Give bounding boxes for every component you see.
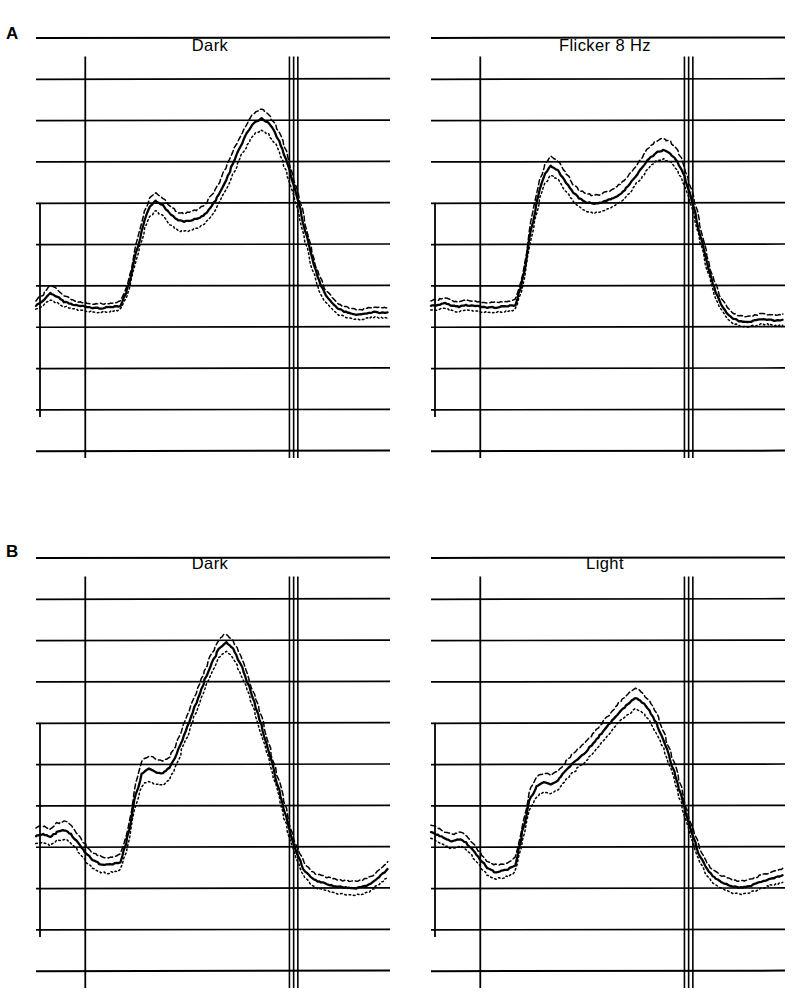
figure-container: A Dark Flicker 8 Hz B Dark Light [0,0,797,994]
plot-title-b-right: Light [425,554,785,573]
gridline [36,368,390,369]
plot-b-right: Light [425,536,785,988]
gridline [431,929,785,930]
gridline [431,409,785,410]
gridline [36,640,390,641]
trace-lower_band [36,130,388,320]
gridline [36,723,390,724]
gridline [431,120,785,121]
gridline [431,244,785,245]
plot-title-a-right: Flicker 8 Hz [425,36,785,55]
gridline [431,203,785,204]
gridline [431,764,785,765]
plot-a-right: Flicker 8 Hz [425,18,785,458]
trace-upper_band [36,109,388,310]
gridline [431,640,785,641]
gridline [36,79,390,80]
waveform-plot-a-right [425,18,785,458]
trace-mean [431,150,783,322]
plot-title-a-left: Dark [30,36,390,55]
trace-lower_band [431,709,783,895]
gridline [431,681,785,682]
trace-upper_band [431,138,783,316]
plot-title-b-left: Dark [30,554,390,573]
gridline [431,805,785,806]
gridline [36,599,390,600]
waveform-plot-b-right [425,536,785,988]
gridline [36,161,390,162]
gridline [36,847,390,848]
gridline [431,285,785,286]
waveform-plot-b-left [30,536,390,988]
gridline [431,451,785,452]
panel-letter-a: A [6,24,18,44]
gridline [36,805,390,806]
gridline [36,409,390,410]
gridline [36,327,390,328]
gridline [36,764,390,765]
gridline [36,929,390,930]
gridline [431,971,785,972]
gridline [431,847,785,848]
gridline [431,327,785,328]
plot-b-left: Dark [30,536,390,988]
gridline [36,451,390,452]
panel-letter-b: B [6,542,18,562]
gridline [431,723,785,724]
gridline [36,971,390,972]
gridline [431,888,785,889]
gridline [431,79,785,80]
trace-upper_band [431,688,783,881]
waveform-plot-a-left [30,18,390,458]
gridline [36,681,390,682]
gridline [431,368,785,369]
gridline [431,161,785,162]
gridline [36,120,390,121]
gridline [36,285,390,286]
trace-lower_band [36,651,388,895]
plot-a-left: Dark [30,18,390,458]
trace-mean [431,698,783,888]
gridline [36,244,390,245]
gridline [431,599,785,600]
